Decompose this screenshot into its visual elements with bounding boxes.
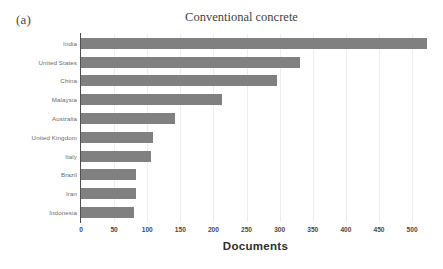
bar-row: China <box>81 72 277 91</box>
bar-category-label: Italy <box>65 153 77 160</box>
bar-row: India <box>81 34 427 53</box>
bar-row: Iran <box>81 184 136 203</box>
x-tick-label: 250 <box>241 226 252 233</box>
x-tick-label: 300 <box>274 226 285 233</box>
bar <box>81 207 134 218</box>
bar-category-label: United States <box>39 59 77 66</box>
x-axis-title: Documents <box>81 240 430 252</box>
bar <box>81 132 153 143</box>
bar-row: Brazil <box>81 166 136 185</box>
figure-panel-a: (a) Conventional concrete IndiaUnited St… <box>0 0 443 269</box>
bar <box>81 38 427 49</box>
bar-row: United States <box>81 53 300 72</box>
x-tick-label: 100 <box>142 226 153 233</box>
bar-category-label: Australia <box>52 115 77 122</box>
bar-category-label: India <box>63 40 77 47</box>
x-tick-label: 350 <box>307 226 318 233</box>
bar <box>81 57 300 68</box>
bar <box>81 113 175 124</box>
bar <box>81 188 136 199</box>
bar-row: United Kingdom <box>81 128 153 147</box>
bar-row: Malaysia <box>81 90 222 109</box>
bar <box>81 169 136 180</box>
plot-area: IndiaUnited StatesChinaMalaysiaAustralia… <box>81 34 430 222</box>
x-tick-label: 0 <box>79 226 83 233</box>
x-tick-label: 150 <box>175 226 186 233</box>
bar-series: IndiaUnited StatesChinaMalaysiaAustralia… <box>81 34 430 222</box>
bar <box>81 75 277 86</box>
x-axis-ticks: 050100150200250300350400450500 <box>81 226 430 238</box>
bar-row: Italy <box>81 147 151 166</box>
bar-category-label: Indonesia <box>49 209 77 216</box>
bar <box>81 151 151 162</box>
bar <box>81 94 222 105</box>
x-tick-label: 500 <box>407 226 418 233</box>
x-tick-label: 450 <box>373 226 384 233</box>
x-tick-label: 200 <box>208 226 219 233</box>
bar-category-label: Malaysia <box>52 96 77 103</box>
bar-row: Indonesia <box>81 203 134 222</box>
bar-row: Australia <box>81 109 175 128</box>
bar-category-label: Iran <box>66 190 77 197</box>
x-tick-label: 50 <box>110 226 117 233</box>
bar-category-label: Brazil <box>61 171 77 178</box>
bar-category-label: China <box>60 77 77 84</box>
bar-category-label: United Kingdom <box>32 134 77 141</box>
chart-title: Conventional concrete <box>0 10 443 25</box>
x-tick-label: 400 <box>340 226 351 233</box>
